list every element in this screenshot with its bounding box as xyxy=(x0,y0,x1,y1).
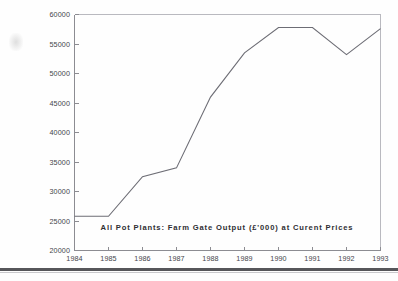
y-tick-label: 55000 xyxy=(50,40,71,49)
x-tick-label: 1993 xyxy=(372,254,388,263)
chart-title: All Pot Plants: Farm Gate Output (£'000)… xyxy=(101,223,354,232)
y-tick-label: 50000 xyxy=(50,69,71,78)
y-axis-ticks xyxy=(75,15,79,251)
x-tick-label: 1986 xyxy=(134,254,150,263)
x-tick-label: 1988 xyxy=(202,254,218,263)
figure-page: 20000 25000 30000 35000 40000 45000 5000… xyxy=(0,0,398,281)
y-tick-label: 45000 xyxy=(50,99,71,108)
x-axis-labels: 1984 1985 1986 1987 1988 1989 1990 1991 … xyxy=(66,254,388,263)
x-tick-label: 1991 xyxy=(304,254,320,263)
y-tick-label: 40000 xyxy=(50,128,71,137)
y-tick-label: 60000 xyxy=(50,10,71,19)
page-separator-rule-shadow xyxy=(0,272,398,273)
y-tick-label: 35000 xyxy=(50,158,71,167)
x-tick-label: 1987 xyxy=(168,254,184,263)
x-tick-label: 1989 xyxy=(236,254,252,263)
data-series-line xyxy=(75,27,381,216)
x-tick-label: 1992 xyxy=(338,254,354,263)
plot-frame xyxy=(75,15,381,251)
y-axis-labels: 20000 25000 30000 35000 40000 45000 5000… xyxy=(50,10,71,255)
x-tick-label: 1990 xyxy=(270,254,286,263)
y-tick-label: 30000 xyxy=(50,187,71,196)
x-axis-ticks xyxy=(75,247,381,251)
page-separator-rule xyxy=(0,268,398,271)
line-chart: 20000 25000 30000 35000 40000 45000 5000… xyxy=(0,0,398,281)
x-tick-label: 1984 xyxy=(66,254,82,263)
x-tick-label: 1985 xyxy=(100,254,116,263)
chart-plot-svg: 20000 25000 30000 35000 40000 45000 5000… xyxy=(0,0,398,281)
y-tick-label: 25000 xyxy=(50,217,71,226)
